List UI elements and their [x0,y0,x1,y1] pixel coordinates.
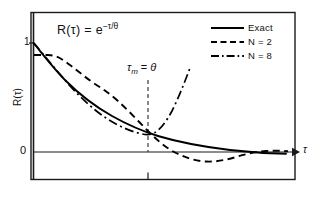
legend-label-n2: N = 2 [248,37,272,47]
y-tick-label-zero: 0 [20,145,26,156]
x-axis-arrowhead [292,148,300,156]
legend-label-exact: Exact [248,23,273,33]
figure-container: R(τ) = e−τ/θ R(τ) 1 0 τ τm = θ Exact N =… [0,0,317,211]
x-axis-label: τ [303,145,307,155]
formula-annotation: R(τ) = e−τ/θ [57,22,118,37]
formula-base: R(τ) = e [57,23,103,37]
y-tick-label-one: 1 [24,37,30,47]
y-axis-label: R(τ) [13,74,23,120]
formula-exponent: −τ/θ [103,21,118,31]
series-n2-line [34,55,288,162]
legend-label-n8: N = 8 [248,51,272,61]
tau-m-annotation-label: τm = θ [127,62,156,76]
